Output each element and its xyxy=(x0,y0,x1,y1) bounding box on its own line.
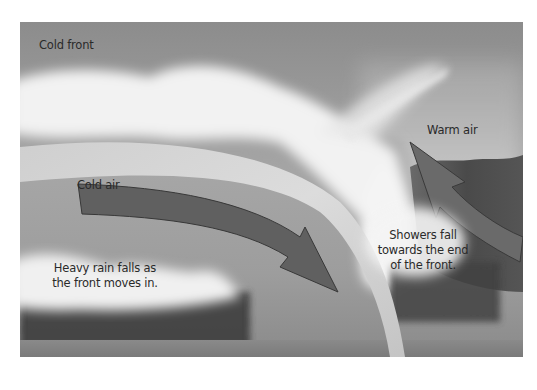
label-cold-air: Cold air xyxy=(77,178,120,193)
heavy-rain-line-1: Heavy rain falls as xyxy=(40,261,170,276)
title-cold-front: Cold front xyxy=(39,38,94,53)
heavy-rain-line-2: the front moves in. xyxy=(40,276,170,291)
label-heavy-rain: Heavy rain falls as the front moves in. xyxy=(40,261,170,291)
showers-line-3: of the front. xyxy=(370,258,476,273)
showers-line-1: Showers fall xyxy=(370,228,476,243)
showers-line-2: towards the end xyxy=(370,243,476,258)
label-showers: Showers fall towards the end of the fron… xyxy=(370,228,476,273)
cold-front-diagram: Cold front Cold air Warm air Heavy rain … xyxy=(20,22,523,357)
label-warm-air: Warm air xyxy=(427,123,477,138)
